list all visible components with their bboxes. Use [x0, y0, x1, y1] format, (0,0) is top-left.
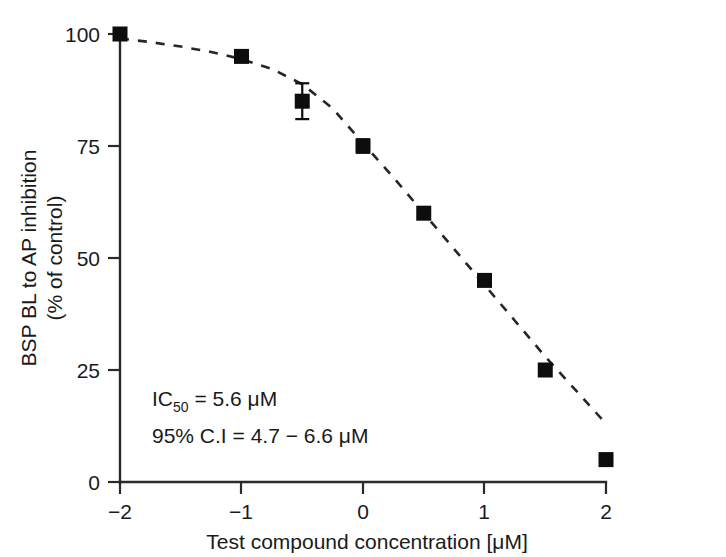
annotation-confidence-interval: 95% C.I = 4.7 − 6.6 μM — [152, 424, 368, 447]
ic50-prefix: IC — [152, 387, 173, 410]
y-tick-label-50: 50 — [77, 247, 100, 270]
dose-response-chart: 0 25 50 75 100 −2 −1 0 1 2 Test compound… — [0, 0, 726, 557]
ic50-subscript: 50 — [173, 399, 189, 415]
data-point-marker — [477, 273, 492, 288]
x-tick-label-neg2: −2 — [108, 500, 132, 523]
ic50-suffix: = 5.6 μM — [189, 387, 278, 410]
chart-canvas: 0 25 50 75 100 −2 −1 0 1 2 Test compound… — [0, 0, 726, 557]
y-tick-label-100: 100 — [65, 23, 100, 46]
data-point-marker — [234, 49, 249, 64]
y-tick-label-0: 0 — [88, 471, 100, 494]
y-axis-title-line2: (% of control) — [43, 196, 66, 321]
data-point-marker — [599, 452, 614, 467]
data-point-marker — [416, 206, 431, 221]
data-point-marker — [538, 363, 553, 378]
x-tick-label-neg1: −1 — [229, 500, 253, 523]
chart-background — [0, 0, 726, 557]
x-tick-label-0: 0 — [357, 500, 369, 523]
x-axis-title: Test compound concentration [μM] — [206, 530, 527, 553]
x-tick-label-1: 1 — [478, 500, 490, 523]
data-point-marker — [295, 94, 310, 109]
y-axis-title-line1: BSP BL to AP inhibition — [17, 150, 40, 367]
data-point-marker — [356, 139, 371, 154]
y-tick-label-75: 75 — [77, 135, 100, 158]
data-point-marker — [113, 27, 128, 42]
y-tick-label-25: 25 — [77, 359, 100, 382]
x-tick-label-2: 2 — [600, 500, 612, 523]
